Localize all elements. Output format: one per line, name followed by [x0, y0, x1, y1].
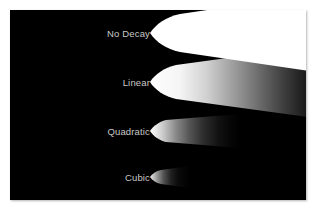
light-cone-linear — [150, 44, 306, 120]
cone-shape-cubic — [150, 164, 306, 190]
decay-label-no-decay: No Decay — [107, 28, 150, 39]
cone-fill-quadratic — [150, 111, 306, 151]
cone-shape-quadratic — [150, 111, 306, 151]
decay-label-linear: Linear — [123, 77, 150, 88]
cone-fill-cubic — [150, 164, 306, 190]
cone-shape-linear — [150, 44, 306, 120]
light-cone-cubic — [150, 164, 306, 190]
figure-canvas: No Decay — [0, 0, 322, 211]
render-panel: No Decay — [10, 10, 306, 200]
decay-label-cubic: Cubic — [125, 172, 150, 183]
decay-label-quadratic: Quadratic — [107, 126, 150, 137]
cone-fill-linear — [150, 44, 306, 120]
light-cone-quadratic — [150, 111, 306, 151]
